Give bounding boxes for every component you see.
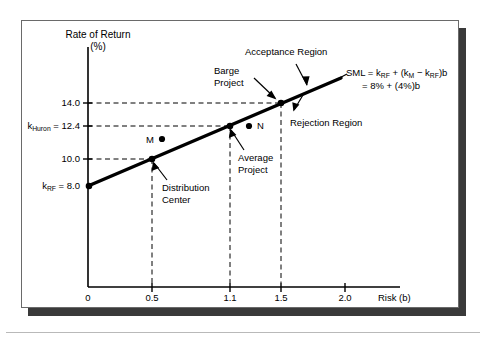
page-bottom-rule — [6, 332, 480, 333]
sml-equation-line1: SML = kRF + (kM − kRF)b — [346, 67, 447, 78]
sml-eq-part3: − k — [414, 67, 430, 78]
y-tick-label-10: 10.0 — [28, 153, 80, 165]
y-tick-label-10-text: 10.0 — [62, 153, 81, 164]
x-tick-label-1-5-text: 1.5 — [274, 292, 287, 303]
k-rf-subscript: RF — [47, 185, 56, 192]
k-huron-subscript: Huron — [32, 125, 51, 132]
sml-line — [88, 78, 341, 186]
x-tick-label-2-0: 2.0 — [333, 292, 357, 304]
sml-eq-sub1: RF — [381, 72, 390, 79]
annotation-average-project-line1: Average — [238, 152, 273, 163]
figure-root: Rate of Return (%) 14.0 kHuron = 12.4 10… — [0, 0, 485, 337]
point-m-marker — [159, 136, 165, 142]
sml-equation: SML = kRF + (kM − kRF)b = 8% + (4%)b — [346, 67, 447, 91]
y-tick-label-12-4: kHuron = 12.4 — [6, 120, 80, 133]
x-tick-label-1-1-text: 1.1 — [223, 292, 236, 303]
x-tick-label-0: 0 — [76, 292, 100, 304]
label-point-n-text: N — [257, 120, 264, 131]
sml-eq-part1: SML = k — [346, 67, 381, 78]
annotation-rejection-region: Rejection Region — [290, 117, 362, 129]
annotation-barge-project: Barge Project — [214, 65, 244, 88]
annotation-barge-project-line1: Barge — [214, 65, 239, 76]
y-axis-title-line1: Rate of Return — [65, 29, 130, 40]
point-barge-project — [278, 100, 285, 107]
x-tick-label-0-5: 0.5 — [140, 292, 164, 304]
annotation-rejection-region-text: Rejection Region — [290, 117, 362, 128]
point-n-marker — [246, 123, 252, 129]
y-axis-title-line2: (%) — [90, 41, 106, 52]
k-huron-value: = 12.4 — [51, 120, 80, 131]
annotation-barge-project-line2: Project — [214, 77, 244, 88]
y-tick-label-8: kRF = 8.0 — [16, 180, 80, 193]
arrow-distribution-center — [152, 161, 167, 180]
y-axis-title: Rate of Return (%) — [43, 29, 153, 53]
annotation-average-project-line2: Project — [238, 164, 268, 175]
x-tick-label-1-5: 1.5 — [269, 292, 293, 304]
label-point-m-text: M — [146, 134, 154, 145]
label-point-m: M — [146, 134, 154, 146]
sml-eq-part4: )b — [439, 67, 447, 78]
arrow-average-project — [229, 128, 244, 150]
annotation-acceptance-region: Acceptance Region — [245, 46, 327, 58]
annotation-acceptance-region-text: Acceptance Region — [245, 46, 327, 57]
y-tick-label-14: 14.0 — [28, 97, 80, 109]
annotation-average-project: Average Project — [238, 152, 273, 175]
x-tick-label-2-0-text: 2.0 — [338, 292, 351, 303]
arrow-acceptance-region — [296, 64, 310, 86]
annotation-distribution-center-line2: Center — [162, 194, 191, 205]
k-rf-value: = 8.0 — [56, 180, 80, 191]
sml-eq-sub2: M — [409, 72, 415, 79]
leader-sml-equation — [330, 74, 347, 83]
point-average-project — [227, 123, 234, 130]
y-tick-label-14-text: 14.0 — [62, 97, 81, 108]
point-krf — [86, 183, 93, 190]
x-tick-label-0-text: 0 — [85, 292, 90, 303]
sml-equation-line2: = 8% + (4%)b — [346, 80, 420, 92]
point-distribution-center — [149, 156, 156, 163]
arrow-barge-project — [254, 78, 277, 100]
sml-eq-part2: + (k — [390, 67, 409, 78]
annotation-distribution-center-line1: Distribution — [162, 182, 210, 193]
annotation-distribution-center: Distribution Center — [162, 182, 210, 205]
x-tick-label-1-1: 1.1 — [218, 292, 242, 304]
x-axis-title-text: Risk (b) — [378, 292, 411, 303]
sml-eq-sub3: RF — [430, 72, 439, 79]
x-tick-label-0-5-text: 0.5 — [145, 292, 158, 303]
label-point-n: N — [257, 120, 264, 132]
x-axis-title: Risk (b) — [378, 292, 411, 304]
